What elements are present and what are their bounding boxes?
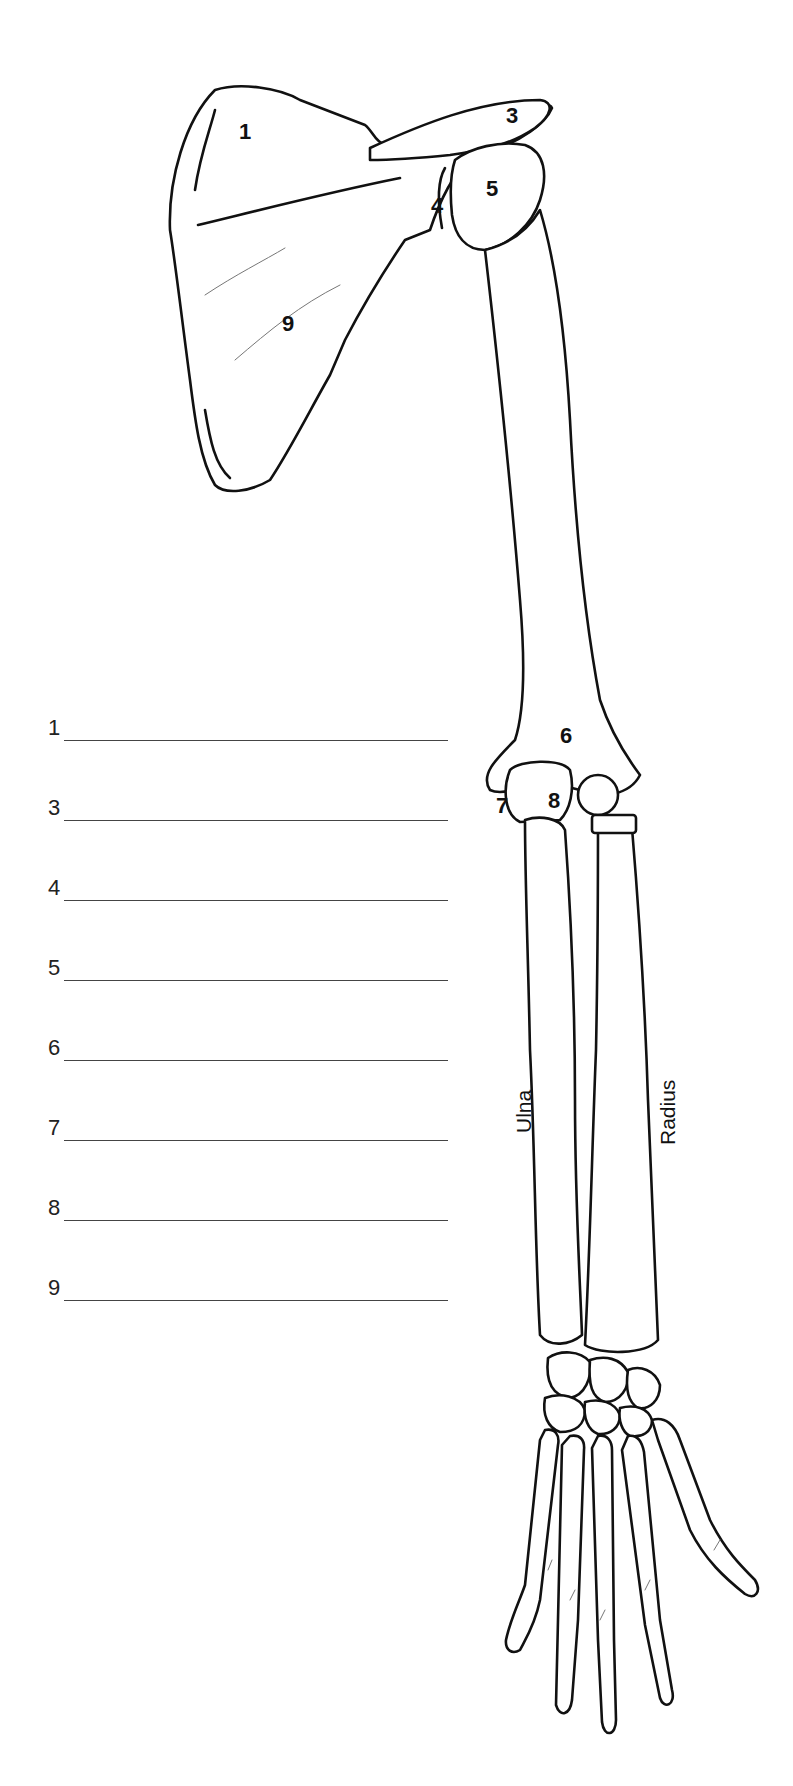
finger-4 (556, 1436, 584, 1714)
blank-number: 1 (48, 717, 60, 739)
blank-number: 6 (48, 1037, 60, 1059)
answer-blank-8[interactable] (64, 1220, 448, 1221)
diagram-label-5: 5 (486, 178, 498, 200)
diagram-label-6: 6 (560, 725, 572, 747)
finger-5 (506, 1430, 559, 1652)
carpal-6 (619, 1407, 652, 1437)
carpal-5 (585, 1401, 620, 1435)
trochlea (506, 762, 572, 822)
capitulum (578, 775, 618, 815)
thumb (652, 1419, 758, 1596)
blank-number: 4 (48, 877, 60, 899)
radius (585, 819, 658, 1352)
blank-number: 5 (48, 957, 60, 979)
diagram-label-8: 8 (548, 790, 560, 812)
blank-number: 3 (48, 797, 60, 819)
answer-blank-4[interactable] (64, 900, 448, 901)
answer-blank-9[interactable] (64, 1300, 448, 1301)
carpal-1 (547, 1352, 590, 1398)
blank-row-8: 8 (48, 1195, 448, 1221)
carpal-2 (590, 1358, 629, 1402)
blank-number: 8 (48, 1197, 60, 1219)
answer-blank-7[interactable] (64, 1140, 448, 1141)
answer-blank-1[interactable] (64, 740, 448, 741)
blank-row-3: 3 (48, 795, 448, 821)
blank-row-6: 6 (48, 1035, 448, 1061)
diagram-label-1: 1 (239, 121, 251, 143)
humerus-shaft (485, 210, 640, 795)
blank-number: 7 (48, 1117, 60, 1139)
diagram-label-9: 9 (282, 313, 294, 335)
answer-blank-6[interactable] (64, 1060, 448, 1061)
ulna-label: Ulna (512, 1090, 536, 1133)
diagram-label-7: 7 (496, 795, 508, 817)
blank-row-5: 5 (48, 955, 448, 981)
diagram-label-4: 4 (431, 195, 443, 217)
carpal-3 (627, 1368, 660, 1408)
blank-row-7: 7 (48, 1115, 448, 1141)
radius-label: Radius (656, 1080, 680, 1145)
finger-2 (622, 1436, 673, 1705)
ulna (525, 818, 582, 1344)
finger-3 (592, 1436, 616, 1733)
answer-blank-3[interactable] (64, 820, 448, 821)
blank-row-1: 1 (48, 715, 448, 741)
blank-row-9: 9 (48, 1275, 448, 1301)
answer-blank-5[interactable] (64, 980, 448, 981)
diagram-label-3: 3 (506, 105, 518, 127)
blank-row-4: 4 (48, 875, 448, 901)
blank-number: 9 (48, 1277, 60, 1299)
carpal-4 (544, 1395, 585, 1432)
radial-head (592, 815, 636, 833)
